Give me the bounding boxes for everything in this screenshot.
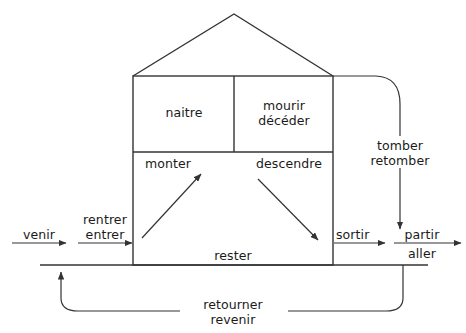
tomber-text: tomber (371, 138, 430, 153)
room-label-naitre: naitre (165, 106, 202, 121)
arrow-label-tomber-retomber: tomber retomber (371, 138, 430, 168)
retourner-text: retourner (203, 297, 263, 312)
descendre-arrow (258, 179, 318, 240)
monter-arrow (142, 174, 201, 238)
room-label-rester: rester (214, 249, 251, 264)
deceder-text: décéder (258, 113, 310, 128)
arrow-label-retourner-revenir: retourner revenir (203, 297, 263, 327)
mourir-text: mourir (258, 98, 310, 113)
arrow-label-sortir: sortir (336, 228, 369, 243)
descendre-text: descendre (256, 156, 322, 171)
rentrer-text: rentrer (83, 212, 127, 227)
retomber-text: retomber (371, 153, 430, 168)
arrow-label-aller: aller (408, 247, 436, 262)
room-label-descendre: descendre (256, 157, 322, 172)
arrow-label-partir: partir (405, 228, 440, 243)
venir-text: venir (23, 227, 55, 242)
room-label-mourir-deceder: mourir décéder (258, 98, 310, 128)
revenir-text: revenir (203, 312, 263, 327)
house-roof (133, 14, 333, 76)
arrow-label-venir: venir (23, 228, 55, 243)
entrer-text: entrer (83, 227, 127, 242)
monter-text: monter (145, 156, 191, 171)
naitre-text: naitre (165, 105, 202, 120)
room-label-monter: monter (145, 157, 191, 172)
partir-text: partir (405, 227, 440, 242)
aller-text: aller (408, 246, 436, 261)
rester-text: rester (214, 248, 251, 263)
sortir-text: sortir (336, 227, 369, 242)
arrow-label-rentrer-entrer: rentrer entrer (83, 212, 127, 242)
diagram-canvas: naitre mourir décéder monter descendre r… (0, 0, 466, 333)
